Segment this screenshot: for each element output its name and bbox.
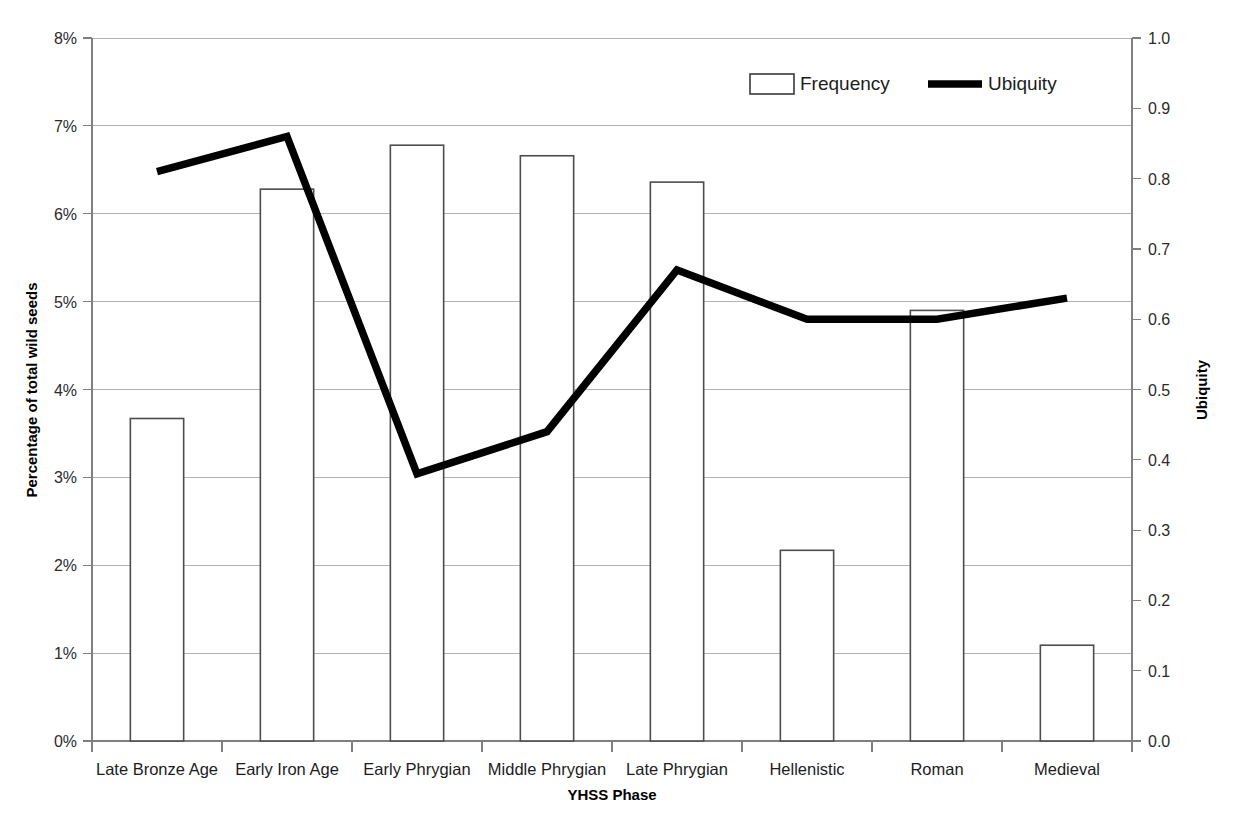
bar-0 <box>130 418 183 741</box>
y-right-axis-title: Ubiquity <box>1193 359 1210 420</box>
bar-7 <box>1040 645 1093 741</box>
bar-4 <box>650 182 703 741</box>
y-left-tick-label: 3% <box>54 469 77 486</box>
x-category-label-3: Middle Phrygian <box>488 760 606 778</box>
x-category-label-2: Early Phrygian <box>363 760 470 778</box>
y-left-tick-label: 5% <box>54 294 77 311</box>
bar-3 <box>520 156 573 741</box>
y-right-tick-label: 0.0 <box>1148 733 1170 750</box>
y-left-tick-label: 1% <box>54 645 77 662</box>
y-right-tick-label: 0.5 <box>1148 382 1170 399</box>
y-right-tick-label: 1.0 <box>1148 30 1170 47</box>
x-category-label-6: Roman <box>910 760 963 778</box>
legend-frequency-swatch-icon <box>750 74 794 94</box>
y-left-tick-label: 0% <box>54 733 77 750</box>
bar-1 <box>260 189 313 741</box>
x-category-label-0: Late Bronze Age <box>96 760 218 778</box>
y-right-tick-label: 0.8 <box>1148 171 1170 188</box>
bar-5 <box>780 550 833 741</box>
dual-axis-chart: 0%1%2%3%4%5%6%7%8% 0.00.10.20.30.40.50.6… <box>0 0 1234 823</box>
bar-2 <box>390 145 443 741</box>
x-category-label-5: Hellenistic <box>769 760 844 778</box>
x-category-labels: Late Bronze AgeEarly Iron AgeEarly Phryg… <box>96 760 1100 778</box>
x-category-label-7: Medieval <box>1034 760 1100 778</box>
x-axis-title: YHSS Phase <box>567 786 656 803</box>
legend-frequency-label: Frequency <box>800 73 890 94</box>
y-right-tick-label: 0.7 <box>1148 241 1170 258</box>
chart-figure: 0%1%2%3%4%5%6%7%8% 0.00.10.20.30.40.50.6… <box>0 0 1234 823</box>
y-right-tick-label: 0.3 <box>1148 522 1170 539</box>
y-right-tick-label: 0.6 <box>1148 311 1170 328</box>
y-right-tick-label: 0.4 <box>1148 452 1170 469</box>
legend-ubiquity-label: Ubiquity <box>988 73 1057 94</box>
y-right-tick-label: 0.9 <box>1148 100 1170 117</box>
y-left-tick-label: 4% <box>54 382 77 399</box>
bar-6 <box>910 310 963 741</box>
x-category-label-1: Early Iron Age <box>235 760 339 778</box>
y-left-tick-label: 8% <box>54 30 77 47</box>
y-left-tick-label: 7% <box>54 118 77 135</box>
y-left-tick-label: 6% <box>54 206 77 223</box>
y-right-tick-label: 0.1 <box>1148 663 1170 680</box>
y-left-axis-title: Percentage of total wild seeds <box>23 282 40 497</box>
y-right-tick-label: 0.2 <box>1148 592 1170 609</box>
x-category-label-4: Late Phrygian <box>626 760 728 778</box>
y-left-tick-label: 2% <box>54 557 77 574</box>
